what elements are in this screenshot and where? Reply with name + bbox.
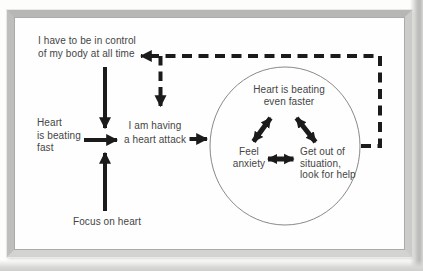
node-control-belief: I have to be in control of my body at al… — [38, 35, 136, 60]
node-focus-on-heart: Focus on heart — [73, 216, 141, 229]
double-arrow-faster-anxiety — [254, 118, 271, 142]
panic-cycle-diagram: I have to be in control of my body at al… — [0, 0, 423, 271]
node-heart-beating-fast: Heart is beating fast — [37, 117, 81, 155]
node-heart-attack-thought: I am having a heart attack — [117, 119, 193, 146]
node-heart-beating-even-faster: Heart is beating even faster — [244, 84, 334, 107]
node-feel-anxiety: Feel anxiety — [224, 146, 274, 169]
figure-photo: I have to be in control of my body at al… — [0, 0, 423, 271]
double-arrow-faster-getout — [297, 118, 316, 142]
node-get-out-of-situation: Get out of situation, look for help — [300, 146, 356, 181]
